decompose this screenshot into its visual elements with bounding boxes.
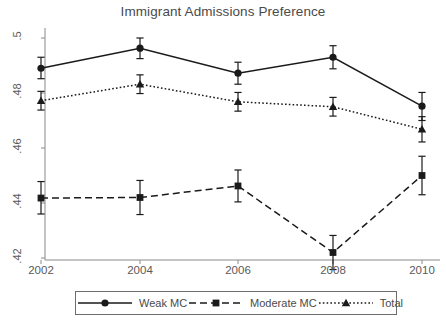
axes [41,28,440,264]
x-tick-label: 2008 [308,264,358,276]
legend-item-weak-mc: Weak MC [76,296,187,310]
series-total [37,75,426,142]
legend-label: Moderate MC [250,297,317,309]
chart-container: Immigrant Admissions Preference .5.48.46… [0,0,446,331]
legend-item-total: Total [317,296,403,310]
legend-swatch-triangle-icon [317,296,375,310]
legend-swatch-circle-icon [76,296,134,310]
plot-area [0,0,446,331]
series-weak-mc [37,38,425,121]
legend-item-moderate-mc: Moderate MC [187,296,317,310]
data-series-layer [37,38,426,270]
legend-swatch-square-icon [187,296,245,310]
y-tick-label: .5 [11,21,23,51]
x-tick-label: 2010 [397,264,446,276]
y-tick-label: .46 [11,131,23,161]
x-tick-label: 2002 [16,264,66,276]
y-tick-label: .48 [11,76,23,106]
y-tick-label: .44 [11,186,23,216]
legend-label: Weak MC [139,297,187,309]
chart-legend: Weak MCModerate MCTotal [75,291,397,315]
x-tick-label: 2004 [115,264,165,276]
series-moderate-mc [37,156,425,269]
x-tick-label: 2006 [213,264,263,276]
legend-label: Total [380,297,403,309]
